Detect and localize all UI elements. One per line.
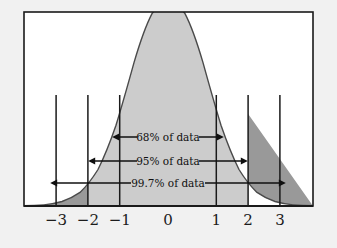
x-tick-label-pos1: 1 bbox=[212, 211, 222, 229]
x-tick-label-pos2: 2 bbox=[243, 211, 253, 229]
annotation-95-label: 95% of data bbox=[136, 155, 200, 167]
x-tick-label-zero: 0 bbox=[163, 211, 173, 229]
x-tick-label-pos3: 3 bbox=[275, 211, 285, 229]
x-tick-label-neg2: −2 bbox=[77, 211, 99, 229]
normal-distribution-figure: 68% of data 95% of data 99.7% of data −3… bbox=[0, 0, 337, 248]
distribution-chart: 68% of data 95% of data 99.7% of data −3… bbox=[0, 0, 337, 248]
x-tick-label-neg3: −3 bbox=[45, 211, 67, 229]
annotation-997-label: 99.7% of data bbox=[131, 177, 205, 189]
annotation-68-label: 68% of data bbox=[136, 131, 200, 143]
x-tick-label-neg1: −1 bbox=[109, 211, 131, 229]
x-axis-tick-labels: −3 −2 −1 0 1 2 3 bbox=[45, 211, 285, 229]
